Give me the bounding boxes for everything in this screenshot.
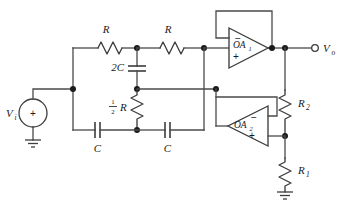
resistor-half-R-numerator: 1 [111,98,114,105]
opamp-OA1-label-sub: 1 [249,45,252,52]
junction-node-input [70,86,76,92]
capacitor-C-bottom-right-label: C [164,142,172,154]
resistor-R1-label-sub: 1 [306,170,310,179]
capacitor-C-bottom-left: C [94,122,102,154]
resistor-R1: R 1 [279,158,310,192]
opamp-OA1-plus-sign: + [233,51,239,62]
output-label: V [323,42,331,54]
resistor-half-R-denominator: 2 [111,108,115,115]
output-terminal-circle [312,45,319,52]
resistor-R2-label-sub: 2 [306,103,310,112]
ground-r1 [277,192,293,199]
opamp-OA1-minus-sign: − [235,33,241,44]
source-label: V [6,107,14,119]
resistor-half-R-label: R [119,101,127,113]
schematic-canvas: + V i R R 2C [0,0,341,210]
source-label-sub: i [15,113,17,122]
resistor-R-top-left-label: R [102,23,110,35]
source-polarity-plus: + [30,108,36,119]
opamp-OA1: OA 1 − + [216,11,285,68]
resistor-R-top-right-label: R [164,23,172,35]
capacitor-2C: 2C [111,48,146,89]
ground-source [25,140,41,147]
circuit-diagram: + V i R R 2C [0,0,341,210]
capacitor-2C-label: 2C [111,61,125,73]
output-label-sub: o [332,48,336,57]
opamp-OA2-plus-sign: + [249,130,255,141]
resistor-R2: R 2 [279,90,310,136]
resistor-R2-label: R [297,97,305,109]
capacitor-C-bottom-right: C [164,122,172,154]
capacitor-C-bottom-left-label: C [94,142,102,154]
opamp-OA2: OA 2 − + [216,97,285,146]
resistor-R-top-left: R [98,23,122,54]
input-voltage-source: + V i [6,89,73,140]
junction-node-oa1-output [269,45,275,51]
opamp-OA2-minus-sign: − [251,112,257,123]
wire-source-to-left-rail [33,89,73,99]
resistor-half-R: 1 2 R [109,89,143,130]
resistor-R1-label: R [297,164,305,176]
resistor-R-top-right: R [160,23,184,54]
opamp-OA2-label: OA [234,120,247,130]
